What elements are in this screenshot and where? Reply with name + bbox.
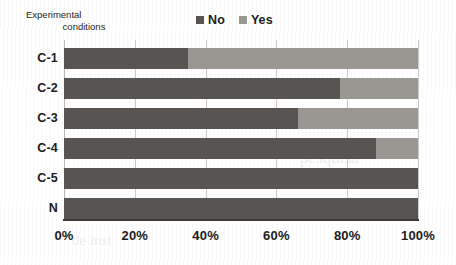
legend-entry-no[interactable]: No: [196, 13, 225, 27]
bar-row[interactable]: [64, 168, 418, 189]
bar-segment-yes[interactable]: [376, 138, 418, 159]
gridline-100: [418, 40, 419, 220]
bar-series-group: [64, 40, 418, 220]
bar-segment-yes[interactable]: [340, 78, 418, 99]
bar-segment-yes[interactable]: [188, 48, 418, 69]
legend-label-yes: Yes: [251, 13, 273, 27]
x-axis-tick-100: 100%: [401, 228, 435, 243]
y-axis-label-c-1: C-1: [0, 51, 58, 65]
y-axis-title-line-2: conditions: [26, 21, 138, 33]
bar-row[interactable]: [64, 108, 418, 129]
legend-label-no: No: [208, 13, 225, 27]
chart-legend: No Yes: [196, 13, 273, 27]
chart-container: depositorios pesquisa de inst Experiment…: [0, 0, 456, 265]
plot-area: [64, 40, 418, 220]
bar-segment-no[interactable]: [64, 198, 418, 219]
legend-swatch-yes-icon: [239, 16, 247, 24]
x-axis-tick-20: 20%: [121, 228, 148, 243]
bar-segment-no[interactable]: [64, 168, 418, 189]
y-axis-label-c-2: C-2: [0, 81, 58, 95]
bar-row[interactable]: [64, 138, 418, 159]
bar-segment-no[interactable]: [64, 108, 298, 129]
y-axis-label-c-5: C-5: [0, 171, 58, 185]
x-axis-tick-labels: 0%20%40%60%80%100%: [0, 228, 456, 250]
legend-entry-yes[interactable]: Yes: [239, 13, 273, 27]
y-axis-title-line-1: Experimental: [26, 9, 81, 20]
bar-segment-yes[interactable]: [298, 108, 418, 129]
x-axis-tick-80: 80%: [334, 228, 361, 243]
y-axis-title: Experimental conditions: [26, 9, 138, 32]
legend-swatch-no-icon: [196, 16, 204, 24]
y-axis-label-c-4: C-4: [0, 141, 58, 155]
bar-row[interactable]: [64, 78, 418, 99]
y-axis-label-n: N: [0, 201, 58, 215]
y-axis-label-c-3: C-3: [0, 111, 58, 125]
bar-row[interactable]: [64, 48, 418, 69]
bar-segment-no[interactable]: [64, 48, 188, 69]
bar-segment-no[interactable]: [64, 138, 376, 159]
y-axis-category-labels: C-1C-2C-3C-4C-5N: [0, 40, 58, 220]
x-axis-tick-0: 0%: [54, 228, 73, 243]
x-axis-tick-60: 60%: [263, 228, 290, 243]
bar-segment-no[interactable]: [64, 78, 340, 99]
x-axis-tick-40: 40%: [192, 228, 219, 243]
bar-row[interactable]: [64, 198, 418, 219]
x-axis-line: [63, 219, 419, 221]
